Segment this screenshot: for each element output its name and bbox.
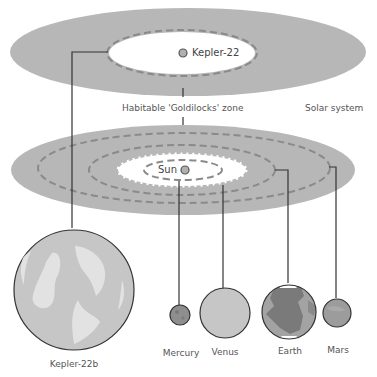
solar-system-label: Solar system <box>305 103 363 114</box>
kepler-22-star-icon <box>179 49 187 57</box>
habitable-zone-label: Habitable 'Goldilocks' zone <box>122 103 243 114</box>
habitable-zone-diagram: Kepler-22 Habitable 'Goldilocks' zone So… <box>0 0 377 377</box>
venus-planet-icon <box>200 288 250 338</box>
venus-label: Venus <box>211 347 238 358</box>
mercury-planet-icon <box>170 305 190 325</box>
sun-icon <box>181 166 189 174</box>
earth-planet-icon <box>262 284 316 339</box>
mercury-label: Mercury <box>163 348 199 359</box>
kepler-22b-label: Kepler-22b <box>50 359 98 370</box>
kepler-22-star-label: Kepler-22 <box>192 47 239 58</box>
kepler-22b-planet-icon <box>14 230 134 350</box>
sun-label: Sun <box>158 164 177 175</box>
mars-label: Mars <box>327 345 349 356</box>
kepler-system <box>10 8 366 96</box>
diagram-canvas <box>0 0 377 377</box>
solar-system <box>11 125 355 215</box>
earth-label: Earth <box>278 346 302 357</box>
mars-planet-icon <box>323 299 351 327</box>
